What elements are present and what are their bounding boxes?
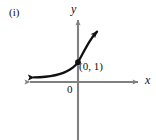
panel-label: (i) xyxy=(9,7,19,18)
x-axis-label: x xyxy=(145,74,150,86)
origin-label: 0 xyxy=(67,84,73,95)
coordinate-plot xyxy=(0,0,156,140)
exponential-graph-figure: (i) y x 0 (0, 1) xyxy=(0,0,156,140)
y-axis-label: y xyxy=(71,3,76,15)
point-coordinate-label: (0, 1) xyxy=(79,61,103,72)
